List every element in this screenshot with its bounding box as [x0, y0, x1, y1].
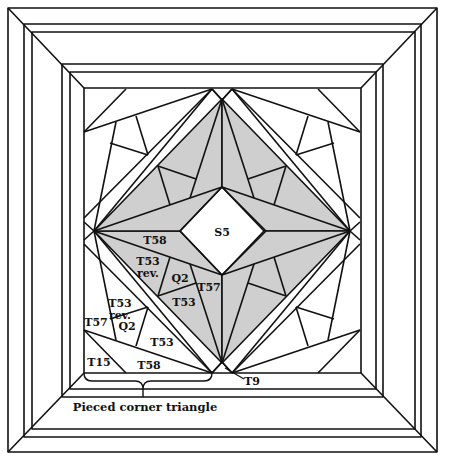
corner-triangle-brace: [84, 373, 212, 397]
quadrant-top-left: [84, 89, 232, 240]
quadrant-bottom-right: [212, 222, 360, 373]
label-t9: T9: [244, 375, 260, 388]
caption-pieced-corner-triangle: Pieced corner triangle: [73, 400, 217, 414]
svg-text:T53: T53: [150, 336, 174, 349]
svg-text:Q2: Q2: [118, 320, 135, 333]
svg-text:T15: T15: [87, 356, 111, 369]
svg-text:T58: T58: [137, 359, 161, 372]
svg-text:T57: T57: [84, 316, 108, 329]
svg-text:T57: T57: [197, 281, 221, 294]
quilt-block-diagram: S5 T58 T53 rev. Q2 T57 T53 T53 rev. T57 …: [0, 0, 451, 461]
svg-text:T58: T58: [143, 234, 167, 247]
svg-text:T53: T53: [172, 296, 196, 309]
svg-text:Q2: Q2: [171, 272, 188, 285]
svg-text:rev.: rev.: [137, 267, 159, 280]
label-s5: S5: [214, 226, 230, 239]
quadrant-top-right: [212, 89, 360, 240]
